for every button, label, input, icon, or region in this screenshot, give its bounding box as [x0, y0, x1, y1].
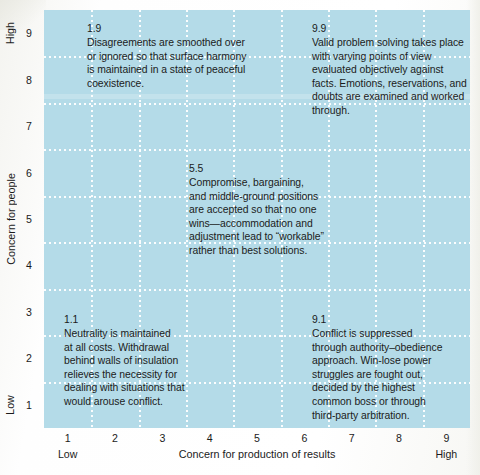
grid-cell-9-1-text: Conflict is suppressed through authority…: [312, 327, 480, 422]
grid-cell-1-9: 1.9 Disagreements are smoothed over or i…: [87, 22, 292, 90]
y-axis-tick-9: 9: [26, 27, 32, 39]
grid-cell-5-5: 5.5 Compromise, bargaining, and middle-g…: [189, 162, 374, 258]
grid-cell-5-5-code: 5.5: [189, 162, 374, 176]
x-axis-tick-6: 6: [301, 432, 307, 444]
grid-cell-1-1-code: 1.1: [64, 313, 239, 327]
gridline-horizontal: [44, 289, 470, 291]
x-axis-tick-3: 3: [159, 432, 165, 444]
y-axis-tick-3: 3: [26, 306, 32, 318]
grid-cell-9-9-code: 9.9: [312, 22, 480, 36]
grid-cell-9-1: 9.1 Conflict is suppressed through autho…: [312, 313, 480, 422]
y-axis-tick-1: 1: [26, 399, 32, 411]
grid-cell-9-9-text: Valid problem solving takes place with v…: [312, 36, 480, 118]
y-axis-low-label: Low: [4, 395, 16, 414]
managerial-grid-plot-area: 1.9 Disagreements are smoothed over or i…: [44, 10, 470, 428]
grid-cell-5-5-text: Compromise, bargaining, and middle-groun…: [189, 176, 374, 258]
gridline-horizontal: [44, 149, 470, 151]
x-axis-tick-4: 4: [207, 432, 213, 444]
grid-cell-9-9: 9.9 Valid problem solving takes place wi…: [312, 22, 480, 118]
x-axis-tick-9: 9: [443, 432, 449, 444]
y-axis-high-label: High: [4, 22, 16, 44]
y-axis-ticks: 987654321HighLow: [0, 10, 40, 428]
grid-cell-1-1-text: Neutrality is maintained at all costs. W…: [64, 327, 239, 409]
x-axis-tick-7: 7: [349, 432, 355, 444]
y-axis-tick-8: 8: [26, 74, 32, 86]
grid-cell-9-1-code: 9.1: [312, 313, 480, 327]
x-axis-ticks: 123456789LowHigh: [44, 432, 470, 448]
x-axis-title: Concern for production of results: [44, 448, 470, 460]
grid-cell-1-9-code: 1.9: [87, 22, 292, 36]
grid-cell-1-9-text: Disagreements are smoothed over or ignor…: [87, 36, 292, 90]
x-axis-tick-1: 1: [65, 432, 71, 444]
y-axis-tick-5: 5: [26, 213, 32, 225]
grid-cell-1-1: 1.1 Neutrality is maintained at all cost…: [64, 313, 239, 409]
y-axis-tick-6: 6: [26, 167, 32, 179]
x-axis-tick-2: 2: [112, 432, 118, 444]
y-axis-tick-2: 2: [26, 352, 32, 364]
y-axis-tick-4: 4: [26, 259, 32, 271]
x-axis-tick-5: 5: [254, 432, 260, 444]
x-axis-tick-8: 8: [396, 432, 402, 444]
y-axis-tick-7: 7: [26, 120, 32, 132]
